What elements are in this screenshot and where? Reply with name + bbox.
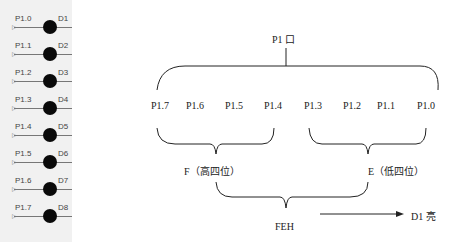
result-label: D1 亮 — [411, 208, 436, 223]
pin-label: P1.0 — [417, 100, 435, 111]
pin-label: P1.1 — [377, 100, 395, 111]
pin-label: P1.6 — [186, 100, 204, 111]
brace-lines — [0, 0, 450, 242]
arrow-head-icon — [396, 211, 404, 217]
pin-label: P1.7 — [151, 100, 169, 111]
bit-mapping-diagram: P1 口 P1.7 P1.6 P1.5 P1.4 P1.3 P1.2 P1.1 … — [0, 0, 450, 242]
pin-label: P1.2 — [343, 100, 361, 111]
low-nibble-label: E（低四位） — [368, 163, 424, 178]
pin-label: P1.4 — [264, 100, 282, 111]
high-nibble-label: F（高四位） — [184, 163, 240, 178]
combined-hex-label: FEH — [275, 221, 294, 232]
pin-label: P1.5 — [225, 100, 243, 111]
pin-label: P1.3 — [304, 100, 322, 111]
port-label: P1 口 — [272, 31, 295, 46]
